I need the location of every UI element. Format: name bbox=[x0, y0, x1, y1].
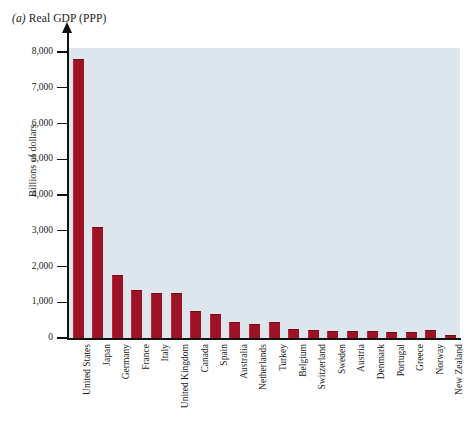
y-axis-tick bbox=[57, 123, 68, 124]
x-axis-label: United States bbox=[82, 344, 92, 395]
x-axis-label: United Kingdom bbox=[180, 344, 190, 408]
y-axis-tick bbox=[57, 51, 68, 52]
y-axis-tick-label: 8,000 bbox=[0, 46, 53, 56]
y-axis-tick bbox=[57, 87, 68, 88]
bar bbox=[210, 314, 221, 338]
bar bbox=[347, 331, 358, 338]
bar bbox=[308, 330, 319, 338]
bar bbox=[386, 332, 397, 338]
x-axis-label: Denmark bbox=[376, 344, 386, 379]
x-axis-label: Spain bbox=[219, 344, 229, 366]
page-title: (a) Real GDP (PPP) bbox=[12, 12, 106, 24]
y-axis-tick-label: 5,000 bbox=[0, 153, 53, 163]
bar bbox=[445, 335, 456, 338]
y-axis-tick-label: 4,000 bbox=[0, 189, 53, 199]
y-axis-tick bbox=[57, 159, 68, 160]
y-axis-line bbox=[67, 30, 69, 339]
bar bbox=[367, 331, 378, 338]
x-axis-line bbox=[67, 338, 461, 340]
x-axis-label: New Zealand bbox=[454, 344, 464, 395]
y-axis-tick-label: 1,000 bbox=[0, 296, 53, 306]
bar bbox=[190, 311, 201, 338]
y-axis-tick-label: 6,000 bbox=[0, 118, 53, 128]
bar bbox=[151, 293, 162, 338]
x-axis-label: Japan bbox=[102, 344, 112, 366]
plot-area bbox=[68, 48, 460, 338]
bar bbox=[112, 275, 123, 338]
bar bbox=[229, 322, 240, 338]
x-axis-label: Austria bbox=[356, 344, 366, 372]
y-axis-tick bbox=[57, 266, 68, 267]
x-axis-label: Belgium bbox=[298, 344, 308, 377]
x-axis-label: Germany bbox=[121, 344, 131, 379]
bar bbox=[171, 293, 182, 338]
x-axis-label: Canada bbox=[200, 344, 210, 373]
bar bbox=[288, 329, 299, 338]
x-axis-label: Sweden bbox=[337, 344, 347, 374]
y-axis-tick bbox=[57, 194, 68, 195]
x-axis-label: Norway bbox=[435, 344, 445, 375]
y-axis-tick-label: 2,000 bbox=[0, 261, 53, 271]
bar bbox=[249, 324, 260, 338]
x-axis-label: Switzerland bbox=[317, 344, 327, 389]
x-axis-label: Italy bbox=[160, 344, 170, 361]
bar bbox=[131, 290, 142, 338]
y-axis-tick-label: 3,000 bbox=[0, 225, 53, 235]
bar bbox=[406, 332, 417, 338]
x-axis-label: France bbox=[141, 344, 151, 370]
bar bbox=[425, 330, 436, 338]
y-axis-tick-label: 7,000 bbox=[0, 82, 53, 92]
y-axis-arrow-icon bbox=[62, 22, 72, 33]
x-axis-label: Portugal bbox=[396, 344, 406, 376]
x-axis-label: Turkey bbox=[278, 344, 288, 371]
y-axis-tick bbox=[57, 230, 68, 231]
x-axis-label: Australia bbox=[239, 344, 249, 379]
bar bbox=[92, 227, 103, 338]
y-axis-tick bbox=[57, 302, 68, 303]
bar bbox=[269, 322, 280, 338]
figure-container: (a) Real GDP (PPP) Billions of dollars 8… bbox=[0, 0, 469, 435]
bar bbox=[327, 331, 338, 338]
x-axis-label: Netherlands bbox=[258, 344, 268, 390]
y-axis-tick bbox=[57, 337, 68, 338]
x-axis-label: Greece bbox=[415, 344, 425, 371]
bar bbox=[73, 59, 84, 338]
panel-letter: (a) bbox=[12, 12, 26, 24]
y-axis-tick-label: 0 bbox=[0, 332, 53, 342]
